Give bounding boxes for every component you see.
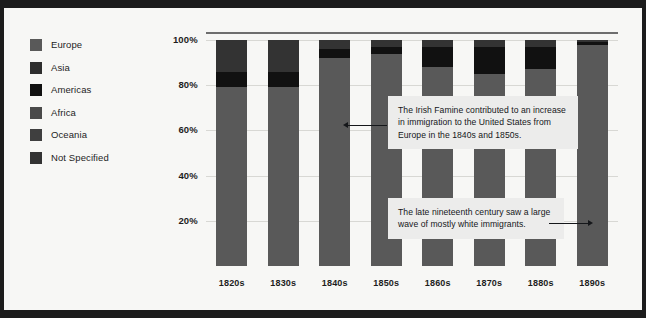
x-axis-tick-label: 1840s	[309, 278, 361, 288]
x-axis-tick-label: 1870s	[464, 278, 516, 288]
bar-segment-americas	[474, 47, 505, 74]
bar-segment-europe	[216, 87, 247, 266]
bar-segment-americas	[577, 42, 608, 44]
legend-item-label: Oceania	[51, 129, 87, 141]
legend-item-not-specified[interactable]: Not Specified	[30, 149, 160, 167]
bar-segment-europe	[268, 87, 299, 266]
bar-1890s[interactable]	[577, 40, 608, 266]
x-axis-tick-label: 1890s	[567, 278, 619, 288]
screenshot-frame: EuropeAsiaAmericasAfricaOceaniaNot Speci…	[0, 0, 646, 318]
x-axis-tick-label: 1860s	[412, 278, 464, 288]
annotation-late-nineteenth-century: The late nineteenth century saw a large …	[388, 198, 564, 239]
y-axis-tick-label: 40%	[160, 170, 198, 181]
bar-segment-europe	[319, 58, 350, 266]
annotation-arrow-irish-famine-head-icon	[343, 122, 348, 128]
legend-swatch-icon	[30, 39, 42, 51]
legend-item-oceania[interactable]: Oceania	[30, 126, 160, 144]
y-axis-tick-label: 80%	[160, 79, 198, 90]
x-axis-tick-label: 1830s	[258, 278, 310, 288]
bar-segment-americas	[422, 47, 453, 67]
x-axis-tick-label: 1820s	[206, 278, 258, 288]
y-axis-tick-label: 20%	[160, 215, 198, 226]
legend-item-europe[interactable]: Europe	[30, 36, 160, 54]
chart-plot-area: 20%40%60%80%100%1820s1830s1840s1850s1860…	[164, 32, 626, 294]
bar-segment-not-specified	[371, 40, 402, 47]
bar-segment-americas	[268, 72, 299, 88]
bar-1830s[interactable]	[268, 40, 299, 266]
legend-swatch-icon	[30, 62, 42, 74]
legend-swatch-icon	[30, 107, 42, 119]
legend-item-asia[interactable]: Asia	[30, 59, 160, 77]
legend-swatch-icon	[30, 129, 42, 141]
bar-1820s[interactable]	[216, 40, 247, 266]
legend-item-label: Europe	[51, 39, 82, 51]
annotation-arrow-irish-famine-line	[347, 125, 387, 126]
annotation-irish-famine: The Irish Famine contributed to an incre…	[388, 96, 578, 149]
chart-page: EuropeAsiaAmericasAfricaOceaniaNot Speci…	[4, 8, 642, 310]
bar-segment-europe	[577, 45, 608, 266]
annotation-arrow-late-nineteenth-head-icon	[588, 220, 593, 226]
y-axis-tick-label: 60%	[160, 124, 198, 135]
bar-segment-americas	[319, 49, 350, 58]
annotation-arrow-late-nineteenth-line	[549, 223, 589, 224]
bar-segment-not-specified	[422, 40, 453, 47]
bar-segment-not-specified	[268, 40, 299, 72]
legend-swatch-icon	[30, 152, 42, 164]
legend-item-americas[interactable]: Americas	[30, 81, 160, 99]
chart-legend: EuropeAsiaAmericasAfricaOceaniaNot Speci…	[30, 36, 160, 171]
y-axis-tick-label: 100%	[160, 34, 198, 45]
bar-segment-americas	[525, 47, 556, 70]
bar-1840s[interactable]	[319, 40, 350, 266]
x-axis-tick-label: 1880s	[515, 278, 567, 288]
bar-segment-not-specified	[319, 40, 350, 49]
legend-swatch-icon	[30, 84, 42, 96]
bar-segment-not-specified	[525, 40, 556, 47]
legend-item-label: Africa	[51, 107, 76, 119]
x-axis-tick-label: 1850s	[361, 278, 413, 288]
bar-segment-not-specified	[474, 40, 505, 47]
legend-item-label: Americas	[51, 84, 91, 96]
legend-item-label: Asia	[51, 62, 70, 74]
x-axis-line	[206, 32, 618, 34]
bar-segment-not-specified	[577, 40, 608, 42]
legend-item-africa[interactable]: Africa	[30, 104, 160, 122]
bar-segment-not-specified	[216, 40, 247, 72]
bar-segment-americas	[371, 47, 402, 54]
legend-item-label: Not Specified	[51, 152, 109, 164]
bar-segment-americas	[216, 72, 247, 88]
